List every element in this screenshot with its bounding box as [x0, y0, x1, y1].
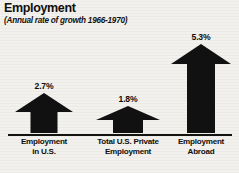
bar-group-employment-abroad: 5.3% [170, 28, 232, 133]
employment-growth-chart: Employment (Annual rate of growth 1966-1… [0, 0, 239, 173]
category-label-line-2: Employment [84, 147, 172, 157]
category-label-line-2: Abroad [168, 147, 234, 157]
bar-group-employment-in-us: 2.7% [14, 28, 74, 133]
chart-title-block: Employment (Annual rate of growth 1966-1… [4, 2, 184, 26]
value-label-employment-in-us: 2.7% [14, 82, 74, 91]
category-labels-row: Employment in U.S. Total U.S. Private Em… [0, 137, 239, 171]
category-label-employment-abroad: Employment Abroad [168, 137, 234, 156]
axis-baseline [8, 134, 232, 136]
category-label-total-us-private-employment: Total U.S. Private Employment [84, 137, 172, 156]
category-label-line-2: in U.S. [8, 147, 80, 157]
arrow-bar-employment-in-us [14, 93, 74, 133]
arrow-bar-total-us-private-employment [95, 106, 161, 133]
arrow-bar-employment-abroad [170, 44, 232, 133]
category-label-line-1: Employment [21, 137, 67, 146]
chart-subtitle: (Annual rate of growth 1966-1970) [4, 16, 184, 26]
category-label-line-1: Total U.S. Private [97, 137, 158, 146]
bar-group-total-us-private-employment: 1.8% [95, 28, 161, 133]
plot-area: 2.7% 1.8% 5.3% [0, 28, 239, 133]
category-label-employment-in-us: Employment in U.S. [8, 137, 80, 156]
chart-title: Employment [4, 2, 184, 15]
value-label-employment-abroad: 5.3% [170, 33, 232, 42]
value-label-total-us-private-employment: 1.8% [95, 95, 161, 104]
category-label-line-1: Employment [178, 137, 224, 146]
